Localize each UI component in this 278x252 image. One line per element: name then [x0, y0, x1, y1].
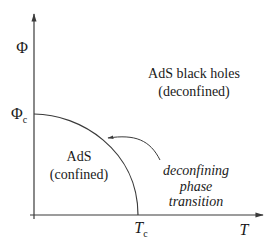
phase-diagram: Φ Φc Tc T AdS black holes (deconfined) A… [0, 0, 278, 252]
y-axis-label: Φ [16, 40, 28, 56]
transition-arrow [108, 137, 160, 160]
x-critical-label: Tc [134, 220, 147, 238]
annotation-line-3: transition [169, 194, 223, 210]
x-critical-base: T [134, 219, 143, 236]
deconfined-region-subtitle: (deconfined) [158, 84, 230, 100]
y-critical-sub: c [23, 114, 27, 125]
confined-region-title: AdS [67, 149, 92, 165]
confined-region-subtitle: (confined) [50, 167, 108, 183]
annotation-line-2: phase [180, 179, 213, 195]
deconfined-region-title: AdS black holes [148, 66, 240, 82]
y-critical-base: Φ [11, 105, 23, 122]
x-axis-label: T [240, 222, 249, 238]
x-critical-sub: c [143, 228, 147, 239]
diagram-graphics [0, 0, 278, 252]
annotation-line-1: deconfining [163, 163, 229, 179]
y-critical-label: Φc [11, 106, 27, 124]
